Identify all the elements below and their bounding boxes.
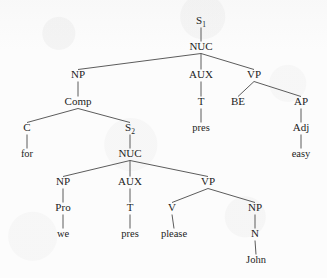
category-node-pro: Pro — [55, 201, 71, 213]
node-subscript-s1: 1 — [202, 20, 206, 29]
tree-edge-layer — [27, 28, 301, 255]
tree-edge-nuc1-to-np1 — [78, 54, 201, 70]
category-node-nuc1: NUC — [189, 40, 212, 52]
tree-edge-vp2-to-v — [172, 189, 208, 203]
category-node-ap: AP — [294, 95, 308, 107]
category-node-np3: NP — [248, 201, 262, 213]
category-node-s1: S1 — [196, 14, 206, 29]
terminal-node-pres2: pres — [121, 228, 139, 239]
terminal-node-please: please — [161, 228, 188, 239]
category-node-t2: T — [127, 201, 134, 213]
tree-edge-comp-to-c — [27, 109, 78, 123]
category-node-s2: S2 — [125, 121, 135, 136]
category-node-nuc2: NUC — [118, 147, 141, 159]
category-node-adj: Adj — [293, 121, 310, 133]
category-node-n: N — [251, 227, 259, 239]
category-node-np1: NP — [71, 68, 85, 80]
terminal-node-pres1: pres — [192, 122, 210, 133]
tree-edge-v-to-please — [172, 215, 174, 229]
category-node-aux1: AUX — [189, 68, 213, 80]
category-node-t1: T — [198, 95, 205, 107]
terminal-node-for: for — [21, 148, 34, 159]
tree-edge-n-to-john — [255, 241, 256, 255]
terminal-node-easy: easy — [292, 148, 311, 159]
category-node-aux2: AUX — [118, 175, 142, 187]
syntax-tree-diagram: S1NUCNPAUXVPCompTBEAPCS2presAdjforNUCeas… — [0, 0, 327, 278]
category-node-np2: NP — [56, 175, 70, 187]
category-node-vp2: VP — [201, 175, 215, 187]
terminal-node-john: John — [246, 254, 267, 265]
category-node-be: BE — [231, 95, 245, 107]
tree-node-layer: S1NUCNPAUXVPCompTBEAPCS2presAdjforNUCeas… — [21, 14, 311, 265]
tree-edge-comp-to-s2 — [78, 109, 130, 123]
category-node-v: V — [168, 201, 176, 213]
node-subscript-s2: 2 — [131, 127, 135, 136]
category-node-vp1: VP — [247, 68, 261, 80]
category-node-c: C — [23, 121, 30, 133]
category-node-comp: Comp — [65, 95, 92, 107]
terminal-node-we: we — [57, 228, 70, 239]
